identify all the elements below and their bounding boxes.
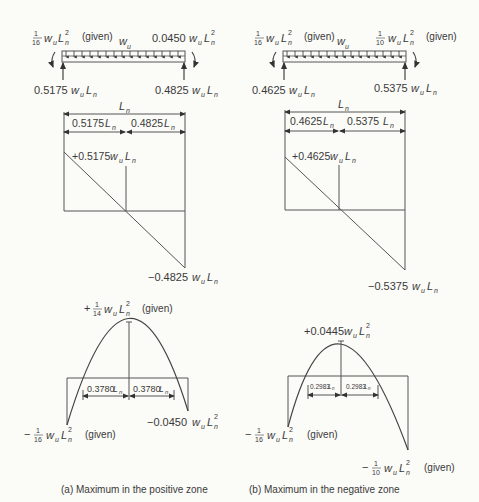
symbol-sq: 2 <box>410 29 414 36</box>
symbol-sq: 2 <box>126 300 130 307</box>
symbol-n: n <box>332 386 335 391</box>
shear-max-positive-coef: +0.5175 <box>72 150 110 162</box>
shear-diagram-b: +0.4625 w u L n −0.5375 w u L n <box>285 150 438 294</box>
symbol-L: L <box>86 84 92 96</box>
left-moment-den: 16 <box>32 39 40 46</box>
symbol-w: w <box>344 325 353 337</box>
loaded-beam-a: 1 16 w u L n 2 (given) 0.0450 w u L n 2 … <box>32 29 218 98</box>
given-note: (given) <box>426 31 457 42</box>
symbol-n: n <box>214 278 218 285</box>
symbol-L: L <box>304 84 310 96</box>
symbol-n: n <box>68 436 72 443</box>
moment-peak-coef: +0.0445 <box>304 325 344 337</box>
symbol-n: n <box>434 287 438 294</box>
symbol-u: u <box>201 278 205 285</box>
left-end-moment-arrow-icon <box>273 52 276 67</box>
moment-right-end-num: 1 <box>374 460 378 467</box>
shear-max-negative-coef: −0.4825 <box>148 271 188 283</box>
symbol-w: w <box>46 429 55 441</box>
symbol-sq: 2 <box>289 426 293 433</box>
zero-to-peak-right-coef: 0.3780 <box>133 384 161 394</box>
symbol-L: L <box>58 32 64 44</box>
symbol-w: w <box>71 84 80 96</box>
left-moment-num: 1 <box>256 30 260 37</box>
symbol-L: L <box>323 115 329 127</box>
symbol-n: n <box>289 436 293 443</box>
moment-left-end-num: 1 <box>36 427 40 434</box>
symbol-sq: 2 <box>288 29 292 36</box>
symbol-w: w <box>104 303 113 315</box>
symbol-n: n <box>112 124 116 131</box>
caption-b: (b) Maximum in the negative zone <box>249 484 400 495</box>
symbol-L: L <box>282 429 288 441</box>
symbol-w: w <box>412 280 421 292</box>
left-reaction-coef: 0.4625 <box>252 84 286 96</box>
symbol-u: u <box>339 157 343 164</box>
symbol-u: u <box>55 436 59 443</box>
symbol-w: w <box>192 271 201 283</box>
symbol-L: L <box>105 117 111 129</box>
symbol-n: n <box>126 310 130 317</box>
symbol-n: n <box>165 389 169 395</box>
shear-line <box>285 157 405 270</box>
span-label: L <box>119 100 125 112</box>
symbol-n: n <box>368 386 371 391</box>
symbol-L: L <box>204 32 210 44</box>
left-end-moment-arrow-icon <box>52 52 55 67</box>
moment-diagram-a: + 1 14 w u L n 2 (given) 0.3780 L n 0.37… <box>24 300 218 443</box>
symbol-w: w <box>267 429 276 441</box>
left-moment-den: 16 <box>254 39 262 46</box>
symbol-L: L <box>281 32 287 44</box>
symbol-n: n <box>352 157 356 164</box>
left-segment-coef: 0.5175 <box>72 117 104 129</box>
moment-left-end-den: 16 <box>34 436 42 443</box>
right-segment-coef: 0.5375 <box>347 115 379 127</box>
right-moment-coef: 0.0450 <box>152 32 186 44</box>
symbol-w: w <box>110 150 119 162</box>
symbol-L: L <box>383 115 389 127</box>
symbol-n: n <box>126 107 130 114</box>
moment-diagram-b: +0.0445 w u L n 2 0.2983 L n 0.2983 L n … <box>245 322 455 476</box>
symbol-L: L <box>125 150 131 162</box>
symbol-u: u <box>201 91 205 98</box>
symbol-L: L <box>399 462 405 474</box>
symbol-L: L <box>207 271 213 283</box>
symbol-u: u <box>80 91 84 98</box>
symbol-n: n <box>330 122 334 129</box>
beam <box>62 51 185 62</box>
symbol-u: u <box>421 287 425 294</box>
symbol-u: u <box>201 423 205 430</box>
symbol-n: n <box>288 39 292 46</box>
beam-diagram-figure: 1 16 w u L n 2 (given) 0.0450 w u L n 2 … <box>0 0 479 502</box>
loaded-beam-b: 1 16 w u L n 2 (given) 1 10 w u L n 2 (g… <box>252 29 457 98</box>
symbol-w: w <box>388 32 397 44</box>
span-label: L <box>338 98 344 110</box>
symbol-L: L <box>113 384 118 394</box>
left-segment-coef: 0.4625 <box>290 115 322 127</box>
symbol-w: w <box>192 416 201 428</box>
symbol-u: u <box>397 39 401 46</box>
symbol-L: L <box>159 384 164 394</box>
symbol-u: u <box>298 91 302 98</box>
symbol-n: n <box>410 39 414 46</box>
symbol-n: n <box>93 91 97 98</box>
symbol-L: L <box>164 117 170 129</box>
moment-right-end-den: 10 <box>372 469 380 476</box>
symbol-sq: 2 <box>406 459 410 466</box>
left-reaction-coef: 0.5175 <box>34 84 68 96</box>
given-note: (given) <box>82 31 113 42</box>
moment-left-end-den: 16 <box>255 436 263 443</box>
symbol-u: u <box>275 39 279 46</box>
symbol-u: u <box>119 157 123 164</box>
load-label-u: u <box>345 43 349 50</box>
moment-left-end-prefix: − <box>245 428 251 440</box>
symbol-u: u <box>353 332 357 339</box>
symbol-L: L <box>426 82 432 94</box>
moment-peak-prefix: + <box>84 302 90 314</box>
symbol-n: n <box>214 91 218 98</box>
right-reaction-coef: 0.5375 <box>374 82 408 94</box>
moment-right-end-prefix: − <box>362 461 368 473</box>
symbol-u: u <box>393 469 397 476</box>
symbol-u: u <box>276 436 280 443</box>
symbol-n: n <box>311 91 315 98</box>
